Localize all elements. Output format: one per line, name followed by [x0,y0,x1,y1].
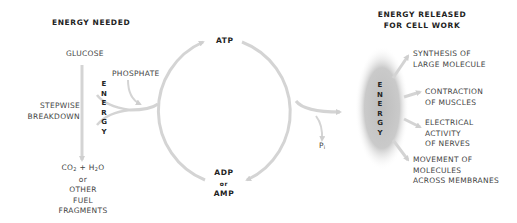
label-glucose: GLUCOSE [66,49,104,60]
heading-energy-released: ENERGY RELEASED FOR CELL WORK [372,10,472,31]
energy-letter: G [99,118,109,128]
output-synthesis: SYNTHESIS OF LARGE MOLECULE [413,49,486,70]
energy-letter: G [375,119,385,129]
output-contraction: CONTRACTION OF MUSCLES [425,87,483,108]
output-line: CONTRACTION [425,87,483,98]
plus-h-text: + H [77,163,95,172]
label-co2-h2o: CO2 + H2O [52,163,114,175]
label-stepwise: STEPWISE [40,101,80,112]
label-fuel: FUEL [52,196,114,207]
atp-cycle-diagram: ENERGY NEEDED ENERGY RELEASED FOR CELL W… [0,0,517,223]
label-or: or [52,175,114,186]
energy-letter: N [375,91,385,101]
energy-letter: R [99,109,109,119]
label-cycle-or: or [212,179,236,190]
output-movement: MOVEMENT OF MOLECULES ACROSS MEMBRANES [413,155,499,187]
heading-energy-released-line2: FOR CELL WORK [372,21,472,32]
output-line: MOVEMENT OF [413,155,499,166]
output-line: OF NERVES [425,139,473,150]
output-line: ACTIVITY [425,129,473,140]
label-amp: AMP [212,189,236,200]
energy-letter: Y [375,129,385,139]
output-line: LARGE MOLECULE [413,60,486,71]
label-phosphate: PHOSPHATE [112,69,160,80]
label-products: CO2 + H2O or OTHER FUEL FRAGMENTS [52,163,114,217]
heading-energy-needed: ENERGY NEEDED [52,18,130,29]
label-pi: Pi [319,141,326,153]
o-text: O [98,163,104,172]
output-line: ACROSS MEMBRANES [413,176,499,187]
energy-vertical-right: E N E R G Y [375,81,385,138]
energy-letter: E [99,99,109,109]
label-other: OTHER [52,185,114,196]
label-adp-amp: ADP or AMP [212,168,236,200]
output-line: SYNTHESIS OF [413,49,486,60]
energy-letter: Y [99,128,109,138]
heading-energy-released-line1: ENERGY RELEASED [372,10,472,21]
pi-subscript: i [324,144,326,150]
output-line: OF MUSCLES [425,98,483,109]
label-stepwise-breakdown: STEPWISE BREAKDOWN [40,101,80,122]
label-breakdown: BREAKDOWN [22,112,80,123]
discharge-arc [242,42,290,180]
energy-vertical-left: E N E R G Y [99,80,109,137]
energy-letter: E [375,81,385,91]
recharge-arc [158,42,205,180]
label-fragments: FRAGMENTS [52,206,114,217]
energy-letter: R [375,110,385,120]
co2-text: CO [62,163,74,172]
output-electrical: ELECTRICAL ACTIVITY OF NERVES [425,118,473,150]
label-adp: ADP [212,168,236,179]
output-line: ELECTRICAL [425,118,473,129]
output-line: MOLECULES [413,166,499,177]
label-atp: ATP [216,36,234,47]
energy-letter: E [375,100,385,110]
energy-letter: E [99,80,109,90]
energy-letter: N [99,90,109,100]
